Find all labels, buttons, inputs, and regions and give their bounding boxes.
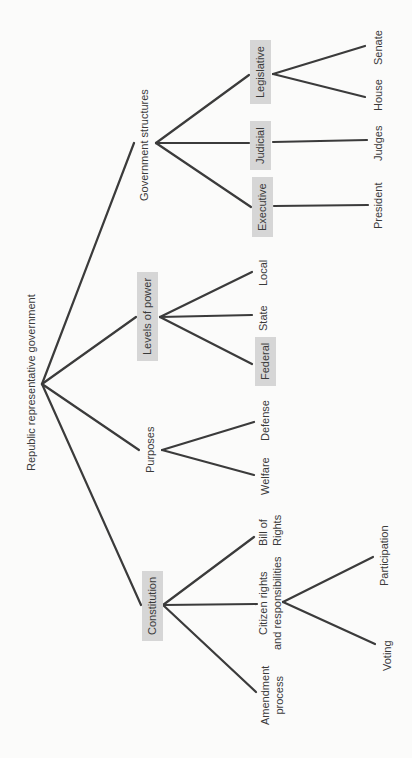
node-senate: Senate xyxy=(371,30,385,65)
tree-edges xyxy=(0,0,412,758)
edge-legislative-to-house xyxy=(273,74,365,97)
node-citizen-rights: Citizen rights and responsibilities xyxy=(256,556,284,650)
node-legislative: Legislative xyxy=(250,40,271,104)
node-local: Local xyxy=(256,260,270,286)
edge-levels_of_power-to-state xyxy=(160,315,252,317)
node-executive: Executive xyxy=(252,177,273,237)
edge-citizen_rights-to-voting xyxy=(283,602,375,644)
node-levels-of-power: Levels of power xyxy=(137,272,158,361)
node-judges: Judges xyxy=(371,126,385,161)
tree-diagram: Republic representative government Gover… xyxy=(0,0,412,758)
node-president: President xyxy=(371,183,385,229)
node-purposes: Purposes xyxy=(143,427,157,473)
node-state: State xyxy=(256,305,270,331)
node-bill-of-rights: Bill of Rights xyxy=(256,515,284,546)
citizen-rights-line1: Citizen rights xyxy=(256,556,270,650)
edge-levels_of_power-to-federal xyxy=(160,317,252,364)
edge-constitution-to-amendment_process xyxy=(163,605,256,692)
node-amendment-process: Amendment process xyxy=(258,666,286,725)
edge-constitution-to-citizen_rights xyxy=(163,604,257,605)
amendment-process-line2: process xyxy=(272,666,286,725)
edge-root-to-government_structures xyxy=(42,143,134,384)
node-constitution: Constitution xyxy=(142,571,163,641)
edge-purposes-to-defense xyxy=(162,422,254,450)
edge-levels_of_power-to-local xyxy=(160,272,252,317)
node-defense: Defense xyxy=(258,400,272,441)
node-root: Republic representative government xyxy=(24,294,38,471)
node-welfare: Welfare xyxy=(258,457,272,495)
edge-constitution-to-bill_of_rights xyxy=(163,537,254,605)
amendment-process-line1: Amendment xyxy=(258,666,272,725)
edge-government_structures-to-executive xyxy=(156,143,251,207)
node-federal: Federal xyxy=(255,337,276,386)
bill-of-rights-line1: Bill of xyxy=(256,515,270,546)
edge-citizen_rights-to-participation xyxy=(283,557,373,602)
edge-judicial-to-judges xyxy=(273,140,367,142)
edge-executive-to-president xyxy=(274,205,368,206)
edge-purposes-to-welfare xyxy=(162,450,254,475)
node-participation: Participation xyxy=(377,525,391,586)
citizen-rights-line2: and responsibilities xyxy=(270,556,284,650)
bill-of-rights-line2: Rights xyxy=(270,515,284,546)
edge-root-to-levels_of_power xyxy=(42,317,136,384)
node-house: House xyxy=(371,79,385,111)
edge-government_structures-to-legislative xyxy=(156,75,249,143)
node-government-structures: Government structures xyxy=(137,89,151,201)
node-voting: Voting xyxy=(380,640,394,671)
node-judicial: Judicial xyxy=(250,121,271,170)
edge-legislative-to-senate xyxy=(273,46,365,74)
